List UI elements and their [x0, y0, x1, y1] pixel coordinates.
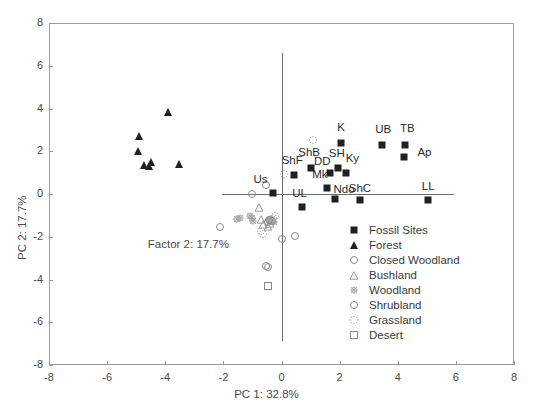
legend-label: Fossil Sites	[363, 224, 428, 236]
legend-label: Forest	[363, 239, 402, 251]
factor-annotation: Factor 2: 17.7%	[148, 238, 229, 250]
marker-square-open	[350, 331, 358, 339]
marker-square-filled	[351, 226, 358, 233]
marker-triangle-open-3-0	[254, 203, 263, 211]
legend-marker-triangle-filled	[345, 237, 363, 252]
legend-label: Woodland	[363, 284, 421, 296]
x-tick-label: -4	[150, 371, 180, 383]
legend-label: Desert	[363, 329, 403, 341]
marker-circle-open-2-6	[291, 232, 299, 240]
site-label-K: K	[337, 121, 345, 133]
legend-row-closed-woodland[interactable]: Closed Woodland	[345, 252, 460, 267]
marker-dot-star-6-1	[280, 169, 289, 178]
x-tick-label: 6	[441, 371, 471, 383]
y-tick-label: 4	[21, 102, 43, 114]
marker-star-hatched	[350, 285, 359, 294]
marker-triangle-filled	[350, 241, 358, 249]
marker-circle-open	[350, 256, 358, 264]
x-tick	[514, 361, 515, 365]
marker-dot-star-6-3	[259, 230, 268, 239]
marker-square-open-7-0	[264, 282, 272, 290]
x-tick	[456, 361, 457, 365]
y-tick-label: 8	[21, 16, 43, 28]
site-label-ShC: ShC	[349, 182, 371, 194]
y-tick-label: 6	[21, 59, 43, 71]
site-label-Ap: Ap	[417, 146, 431, 158]
x-tick	[107, 361, 108, 365]
marker-circle-open-2-5	[278, 235, 286, 243]
legend-row-grassland[interactable]: Grassland	[345, 312, 460, 327]
x-tick-label: 8	[499, 371, 529, 383]
y-tick	[49, 194, 53, 195]
marker-circle-open	[350, 301, 358, 309]
marker-square-filled-Us	[269, 189, 276, 196]
marker-square-filled-UL	[299, 204, 306, 211]
legend-row-fossil-sites[interactable]: Fossil Sites	[345, 222, 460, 237]
legend-marker-circle-open	[345, 297, 363, 312]
vertical-zero-line	[282, 53, 283, 342]
x-tick-label: 4	[383, 371, 413, 383]
y-tick	[49, 66, 53, 67]
y-tick	[49, 109, 53, 110]
legend-marker-square-filled	[345, 222, 363, 237]
marker-square-filled-UB	[378, 141, 385, 148]
marker-star-hatched-4-1	[236, 213, 245, 222]
marker-triangle-open	[350, 271, 359, 279]
legend-marker-triangle-open	[345, 267, 363, 282]
x-tick-label: 2	[325, 371, 355, 383]
legend-marker-circle-open	[345, 252, 363, 267]
legend-label: Bushland	[363, 269, 417, 281]
legend-row-shrubland[interactable]: Shrubland	[345, 297, 460, 312]
marker-circle-open-5-3	[264, 263, 272, 271]
x-axis-title: PC 1: 32.8%	[0, 388, 533, 400]
site-label-Mk: Mk	[312, 168, 327, 180]
x-tick-label: -6	[92, 371, 122, 383]
marker-square-filled-Ap	[400, 154, 407, 161]
legend-row-desert[interactable]: Desert	[345, 327, 460, 342]
legend-label: Grassland	[363, 314, 421, 326]
y-tick	[49, 151, 53, 152]
x-tick	[165, 361, 166, 365]
site-label-LL: LL	[422, 180, 435, 192]
scatter-plot-figure: -8-6-4-20246886420-2-4-6-8 UsShFShBDDSHK…	[0, 0, 533, 410]
marker-square-filled-LL	[425, 196, 432, 203]
legend-row-woodland[interactable]: Woodland	[345, 282, 460, 297]
site-label-Ky: Ky	[346, 152, 359, 164]
legend-label: Shrubland	[363, 299, 421, 311]
site-label-Us: Us	[254, 173, 268, 185]
y-tick-label: -8	[21, 358, 43, 370]
marker-circle-open-2-0	[216, 223, 224, 231]
y-axis-title: PC 2: 17.7%	[16, 195, 28, 260]
y-tick	[49, 365, 53, 366]
x-tick	[282, 361, 283, 365]
x-tick-label: 0	[267, 371, 297, 383]
marker-star-hatched-4-4	[249, 216, 258, 225]
y-tick-label: 2	[21, 144, 43, 156]
legend-label: Closed Woodland	[363, 254, 460, 266]
marker-dot-star-6-0	[309, 136, 318, 145]
marker-triangle-filled-1-5	[164, 108, 172, 116]
legend-row-forest[interactable]: Forest	[345, 237, 460, 252]
x-tick	[398, 361, 399, 365]
x-tick-label: -2	[208, 371, 238, 383]
marker-dot-star-6-5	[271, 212, 280, 221]
legend: Fossil SitesForestClosed WoodlandBushlan…	[345, 222, 460, 342]
legend-marker-dot-star	[345, 312, 363, 327]
marker-triangle-filled-1-4	[147, 158, 155, 166]
marker-triangle-filled-1-1	[134, 147, 142, 155]
legend-marker-square-open	[345, 327, 363, 342]
marker-square-filled-ShC	[356, 197, 363, 204]
legend-row-bushland[interactable]: Bushland	[345, 267, 460, 282]
marker-circle-open-2-1	[248, 190, 256, 198]
y-tick-label: -6	[21, 315, 43, 327]
site-label-TB: TB	[400, 122, 415, 134]
marker-square-filled-Ky	[343, 169, 350, 176]
marker-square-filled-K	[338, 139, 345, 146]
y-tick	[49, 322, 53, 323]
y-tick	[49, 280, 53, 281]
x-tick	[223, 361, 224, 365]
site-label-UB: UB	[375, 123, 391, 135]
marker-square-filled-TB	[402, 141, 409, 148]
y-tick	[49, 237, 53, 238]
y-tick-label: -4	[21, 273, 43, 285]
